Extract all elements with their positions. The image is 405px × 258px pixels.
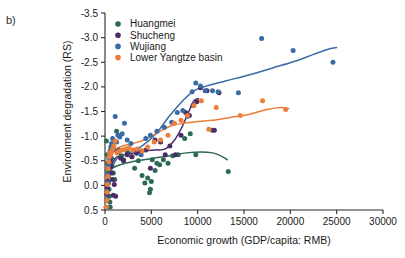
data-point (145, 175, 150, 180)
data-point (158, 138, 163, 143)
data-point (178, 133, 183, 138)
data-point (173, 152, 178, 157)
data-point (283, 107, 288, 112)
data-point (163, 152, 168, 157)
legend-marker (115, 55, 121, 61)
x-tick-label: 20000 (276, 216, 304, 227)
legend-marker (115, 44, 121, 50)
data-point (178, 118, 183, 123)
series-huangmei (104, 128, 231, 210)
legend-marker (115, 32, 121, 38)
data-point (260, 98, 265, 103)
data-point (193, 152, 198, 157)
y-tick-label: -2.5 (81, 57, 99, 68)
data-point (111, 143, 116, 148)
data-point (140, 173, 145, 178)
data-point (162, 125, 167, 130)
data-point (226, 169, 231, 174)
data-point (291, 48, 296, 53)
data-point (161, 157, 166, 162)
data-point (136, 158, 141, 163)
data-point (180, 108, 185, 113)
data-point (106, 159, 111, 164)
data-point (167, 143, 172, 148)
y-tick-label: 0.0 (84, 180, 98, 191)
data-point (210, 88, 215, 93)
data-point (130, 147, 135, 152)
data-point (236, 90, 241, 95)
data-point (105, 190, 110, 195)
y-tick-label: -3.0 (81, 32, 99, 43)
legend-label: Huangmei (130, 18, 176, 29)
data-point (113, 114, 118, 119)
legend-item-wujiang[interactable]: Wujiang (115, 41, 166, 52)
legend-item-huangmei[interactable]: Huangmei (115, 18, 175, 29)
data-point (214, 105, 219, 110)
data-point (105, 182, 110, 187)
legend-item-lower-yangtze-basin[interactable]: Lower Yangtze basin (115, 52, 222, 63)
legend-item-shucheng[interactable]: Shucheng (115, 30, 175, 41)
data-point (110, 177, 115, 182)
data-point (128, 141, 133, 146)
data-point (122, 121, 127, 126)
data-point (193, 80, 198, 85)
data-point (191, 103, 196, 108)
data-point (112, 182, 117, 187)
y-tick-label: -3.5 (81, 8, 99, 19)
legend-label: Lower Yangtze basin (130, 52, 222, 63)
data-point (125, 138, 130, 143)
y-tick-label: -0.5 (81, 155, 99, 166)
legend-marker (115, 21, 121, 27)
data-point (188, 131, 193, 136)
data-point (206, 127, 211, 132)
data-point (185, 113, 190, 118)
y-axis-title: Environment degradation (RS) (61, 41, 73, 183)
y-tick-label: -2.0 (81, 81, 99, 92)
data-point (198, 83, 203, 88)
x-tick-label: 0 (102, 216, 108, 227)
x-tick-label: 5000 (140, 216, 163, 227)
data-point (190, 89, 195, 94)
data-point (152, 140, 157, 145)
data-point (125, 152, 130, 157)
x-tick-label: 10000 (184, 216, 212, 227)
data-point (216, 89, 221, 94)
data-point (175, 110, 180, 115)
data-point (104, 205, 109, 210)
data-point (199, 98, 204, 103)
data-point (145, 144, 150, 149)
data-point (104, 139, 109, 144)
data-point (142, 180, 147, 185)
y-tick-label: -1.0 (81, 131, 99, 142)
data-point (172, 121, 177, 126)
data-point (113, 139, 118, 144)
x-tick-label: 25000 (323, 216, 351, 227)
data-point (140, 148, 145, 153)
data-point (157, 162, 162, 167)
data-point (166, 133, 171, 138)
data-point (166, 161, 171, 166)
y-tick-label: 0.5 (84, 205, 98, 216)
data-point (182, 136, 187, 141)
legend-label: Shucheng (130, 30, 175, 41)
legend[interactable]: HuangmeiShuchengWujiangLower Yangtze bas… (115, 18, 222, 63)
data-point (238, 113, 243, 118)
data-point (113, 194, 118, 199)
data-point (143, 136, 148, 141)
x-tick-label: 15000 (230, 216, 258, 227)
data-point (120, 131, 125, 136)
x-tick-label: 30000 (369, 216, 397, 227)
data-point (330, 60, 335, 65)
data-point (104, 198, 109, 203)
data-point (153, 168, 158, 173)
trend-curves (106, 47, 337, 194)
data-point (147, 190, 152, 195)
data-point (129, 154, 134, 159)
data-point (106, 166, 111, 171)
data-point (149, 179, 154, 184)
data-point (132, 166, 137, 171)
data-point (135, 146, 140, 151)
data-point (148, 133, 153, 138)
data-point (121, 158, 126, 163)
trend-curve-lower-yangtze-basin (106, 108, 288, 183)
